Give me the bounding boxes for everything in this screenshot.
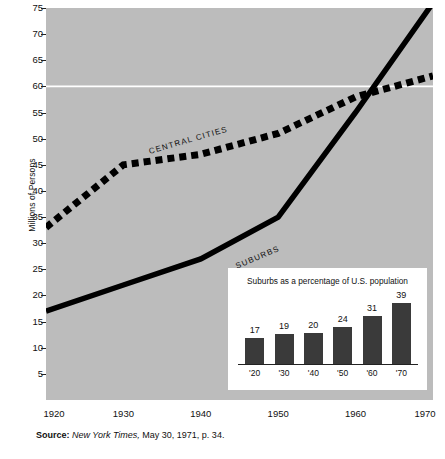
inset-x-axis-line bbox=[238, 364, 418, 365]
y-axis-tick-label: 70 bbox=[17, 29, 43, 39]
y-axis-tick-label: 55 bbox=[17, 108, 43, 118]
inset-x-axis-tick-label: '50 bbox=[330, 368, 356, 378]
y-axis-tick-label: 20 bbox=[17, 290, 43, 300]
inset-bar bbox=[333, 327, 352, 364]
inset-x-axis-tick-label: '30 bbox=[271, 368, 297, 378]
x-axis-tick-label: 1970 bbox=[414, 409, 435, 419]
source-note: Source: New York Times, May 30, 1971, p.… bbox=[36, 430, 224, 440]
figure-container: Millions of Persons 51015202530354045505… bbox=[0, 0, 445, 459]
source-detail: May 30, 1971, p. 34. bbox=[142, 430, 224, 440]
inset-bar-value: 17 bbox=[242, 326, 268, 335]
y-axis-tick-labels: 51015202530354045505560657075 bbox=[10, 0, 43, 459]
inset-chart: Suburbs as a percentage of U.S. populati… bbox=[228, 268, 427, 390]
inset-bar-value: 31 bbox=[359, 304, 385, 313]
inset-x-axis-labels: '20'30'40'50'60'70 bbox=[240, 368, 416, 382]
inset-bar-value: 24 bbox=[330, 315, 356, 324]
inset-x-axis-tick-label: '70 bbox=[388, 368, 414, 378]
y-axis-tick-label: 35 bbox=[17, 212, 43, 222]
inset-bar-value: 20 bbox=[300, 321, 326, 330]
inset-chart-title: Suburbs as a percentage of U.S. populati… bbox=[228, 276, 427, 286]
inset-bar bbox=[363, 316, 382, 364]
inset-plot-area: 171920243139 bbox=[240, 294, 416, 364]
y-axis-tick-label: 45 bbox=[17, 160, 43, 170]
inset-bar bbox=[275, 334, 294, 364]
y-axis-tick-label: 25 bbox=[17, 264, 43, 274]
y-axis-tick-label: 30 bbox=[17, 238, 43, 248]
inset-bar bbox=[304, 333, 323, 364]
inset-x-axis-tick-label: '40 bbox=[300, 368, 326, 378]
x-axis-tick-label: 1940 bbox=[190, 409, 211, 419]
series-line-central-cities bbox=[46, 76, 433, 228]
y-axis-tick-label: 65 bbox=[17, 55, 43, 65]
inset-bar-value: 19 bbox=[271, 322, 297, 331]
source-prefix: Source: bbox=[36, 430, 70, 440]
y-axis-tick-label: 60 bbox=[17, 81, 43, 91]
inset-x-axis-tick-label: '20 bbox=[242, 368, 268, 378]
inset-x-axis-tick-label: '60 bbox=[359, 368, 385, 378]
x-axis-tick-label: 1960 bbox=[345, 409, 366, 419]
y-axis-tick-label: 75 bbox=[17, 3, 43, 13]
inset-bar bbox=[392, 303, 411, 364]
inset-bar bbox=[245, 338, 264, 364]
x-axis-tick-labels: 192019301940195019601970 bbox=[0, 409, 445, 425]
y-axis-tick-label: 5 bbox=[17, 369, 43, 379]
x-axis-tick-label: 1930 bbox=[113, 409, 134, 419]
y-axis-tick-label: 15 bbox=[17, 317, 43, 327]
y-axis-tick-label: 10 bbox=[17, 343, 43, 353]
y-axis-tick-label: 50 bbox=[17, 134, 43, 144]
inset-bar-value: 39 bbox=[388, 291, 414, 300]
y-axis-tick-label: 40 bbox=[17, 186, 43, 196]
x-axis-tick-label: 1920 bbox=[43, 409, 64, 419]
x-axis-tick-label: 1950 bbox=[268, 409, 289, 419]
source-publication: New York Times, bbox=[72, 430, 140, 440]
